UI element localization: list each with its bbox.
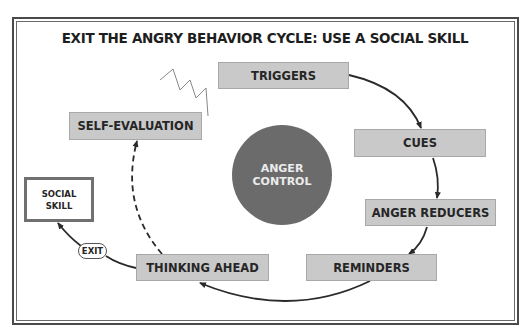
step-cues: CUES	[354, 129, 486, 157]
arrow-reducers-to-reminders	[409, 227, 427, 254]
step-reminders: REMINDERS	[306, 254, 437, 281]
anger-control-circle: ANGER CONTROL	[232, 125, 332, 225]
social-skill-line1: SOCIAL	[42, 188, 77, 200]
social-skill-line2: SKILL	[46, 200, 73, 212]
center-label-line1: ANGER	[261, 162, 304, 175]
zigzag-icon	[160, 69, 208, 116]
step-self-evaluation: SELF-EVALUATION	[69, 112, 202, 140]
arrow-triggers-to-cues	[349, 75, 421, 128]
arrow-exit-to-social-skill	[58, 223, 81, 246]
arrow-reminders-to-thinking	[200, 281, 370, 301]
exit-label: EXIT	[78, 243, 107, 259]
arrow-cues-to-reducers	[433, 158, 438, 198]
social-skill-box: SOCIAL SKILL	[24, 177, 94, 222]
arrow-thinking-to-selfeval	[132, 141, 162, 254]
step-thinking-ahead: THINKING AHEAD	[136, 254, 269, 281]
step-anger-reducers: ANGER REDUCERS	[365, 199, 496, 226]
step-triggers: TRIGGERS	[218, 62, 349, 89]
arrow-thinking-to-exit	[106, 256, 136, 268]
center-label-line2: CONTROL	[253, 175, 312, 188]
